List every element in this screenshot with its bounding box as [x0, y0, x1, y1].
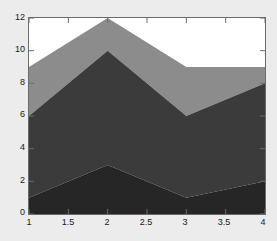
y-tick-label: 2 — [1, 176, 25, 185]
y-tick-label: 6 — [1, 110, 25, 119]
y-axis: 12 10 8 6 4 2 0 — [0, 0, 25, 241]
stacked-area-plot — [29, 18, 265, 214]
x-axis: 1 1.5 2 2.5 3 3.5 4 — [28, 218, 265, 232]
y-tick-label: 0 — [1, 208, 25, 217]
x-tick-label: 1.5 — [53, 218, 83, 227]
y-tick-label: 4 — [1, 143, 25, 152]
y-tick-label: 10 — [1, 45, 25, 54]
x-tick-label: 4 — [248, 218, 277, 227]
x-tick-label: 1 — [14, 218, 44, 227]
x-tick-label: 3.5 — [209, 218, 239, 227]
y-tick-label: 8 — [1, 78, 25, 87]
x-tick-label: 3 — [170, 218, 200, 227]
plot-area — [28, 17, 266, 215]
chart-figure: 12 10 8 6 4 2 0 1 1.5 2 2.5 3 3.5 4 — [0, 0, 277, 241]
y-tick-label: 12 — [1, 13, 25, 22]
x-tick-label: 2.5 — [131, 218, 161, 227]
x-tick-label: 2 — [92, 218, 122, 227]
